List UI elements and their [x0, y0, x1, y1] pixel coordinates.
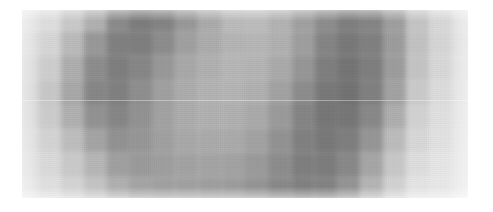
- heatmap-cell: [176, 177, 199, 198]
- heatmap-cell: [22, 104, 37, 128]
- heatmap-cell: [314, 153, 337, 177]
- heatmap-cell: [176, 80, 199, 104]
- heatmap-cell: [22, 80, 37, 104]
- heatmap-cell: [407, 80, 430, 104]
- heatmap-cell: [314, 31, 337, 55]
- heatmap-cell: [314, 104, 337, 128]
- heatmap-cell: [268, 80, 291, 104]
- heatmap-cell: [430, 55, 453, 79]
- heatmap-cell: [153, 153, 176, 177]
- heatmap-cell: [383, 31, 406, 55]
- heatmap-cell: [291, 128, 314, 152]
- heatmap-cell: [222, 177, 245, 198]
- heatmap-cell: [383, 153, 406, 177]
- heatmap-cell: [407, 104, 430, 128]
- heatmap-cell: [337, 55, 360, 79]
- heatmap-cell: [107, 10, 130, 31]
- heatmap-cell: [107, 55, 130, 79]
- heatmap-cell: [453, 153, 468, 177]
- heatmap-cell: [453, 80, 468, 104]
- heatmap-cell: [83, 104, 106, 128]
- heatmap-cell: [37, 80, 60, 104]
- heatmap-cell: [176, 153, 199, 177]
- heatmap-cell: [22, 128, 37, 152]
- heatmap-cell: [60, 80, 83, 104]
- heatmap-cell: [176, 55, 199, 79]
- heatmap-cell: [453, 31, 468, 55]
- heatmap-cell: [107, 153, 130, 177]
- heatmap-cell: [291, 177, 314, 198]
- heatmap-cell: [176, 128, 199, 152]
- heatmap-cell: [430, 104, 453, 128]
- heatmap-cell: [453, 10, 468, 31]
- heatmap-cell: [199, 128, 222, 152]
- heatmap-cell: [407, 55, 430, 79]
- heatmap-cell: [130, 177, 153, 198]
- heatmap-cell: [407, 153, 430, 177]
- heatmap-cell: [22, 31, 37, 55]
- heatmap-cell: [107, 31, 130, 55]
- heatmap-cell: [430, 31, 453, 55]
- heatmap-cell: [222, 55, 245, 79]
- heatmap-cell: [37, 153, 60, 177]
- heatmap-cell: [314, 177, 337, 198]
- heatmap-cell: [407, 128, 430, 152]
- heatmap-cell: [199, 80, 222, 104]
- heatmap-cell: [153, 31, 176, 55]
- heatmap-cell: [60, 104, 83, 128]
- heatmap-cell: [360, 128, 383, 152]
- heatmap-cell: [383, 55, 406, 79]
- pixelated-heatmap-figure: [22, 10, 468, 198]
- heatmap-cell: [37, 104, 60, 128]
- heatmap-cell: [245, 55, 268, 79]
- heatmap-cell: [83, 128, 106, 152]
- heatmap-cell: [222, 153, 245, 177]
- heatmap-cell: [37, 10, 60, 31]
- heatmap-cell: [60, 177, 83, 198]
- heatmap-cell: [337, 104, 360, 128]
- heatmap-cell: [360, 177, 383, 198]
- heatmap-cell: [153, 80, 176, 104]
- heatmap-cell: [199, 55, 222, 79]
- heatmap-cell: [453, 177, 468, 198]
- heatmap-cell: [83, 55, 106, 79]
- heatmap-cell: [37, 128, 60, 152]
- heatmap-cell: [153, 128, 176, 152]
- heatmap-cell: [245, 104, 268, 128]
- heatmap-cell: [37, 177, 60, 198]
- heatmap-cell: [360, 55, 383, 79]
- heatmap-cell: [199, 31, 222, 55]
- heatmap-cell: [337, 128, 360, 152]
- heatmap-cell: [268, 10, 291, 31]
- heatmap-cell: [153, 55, 176, 79]
- heatmap-cell: [245, 177, 268, 198]
- heatmap-cell: [453, 128, 468, 152]
- heatmap-cell: [60, 55, 83, 79]
- heatmap-cell: [130, 104, 153, 128]
- heatmap-cell: [268, 104, 291, 128]
- heatmap-cell: [37, 31, 60, 55]
- heatmap-cell: [83, 177, 106, 198]
- heatmap-cell: [407, 177, 430, 198]
- heatmap-cell: [37, 55, 60, 79]
- heatmap-cell: [430, 153, 453, 177]
- heatmap-cell: [430, 80, 453, 104]
- heatmap-cell: [337, 153, 360, 177]
- heatmap-cell: [245, 31, 268, 55]
- heatmap-cell: [22, 153, 37, 177]
- heatmap-cell: [130, 10, 153, 31]
- heatmap-cell: [130, 55, 153, 79]
- heatmap-cell: [383, 10, 406, 31]
- heatmap-cell: [314, 10, 337, 31]
- heatmap-cell: [360, 31, 383, 55]
- heatmap-cell: [153, 10, 176, 31]
- heatmap-cell: [107, 80, 130, 104]
- heatmap-cell: [430, 177, 453, 198]
- heatmap-cell: [337, 31, 360, 55]
- heatmap-cell: [291, 80, 314, 104]
- heatmap-cell: [60, 128, 83, 152]
- heatmap-cell: [291, 10, 314, 31]
- heatmap-cell: [430, 128, 453, 152]
- heatmap-cell: [60, 10, 83, 31]
- heatmap-cell: [268, 31, 291, 55]
